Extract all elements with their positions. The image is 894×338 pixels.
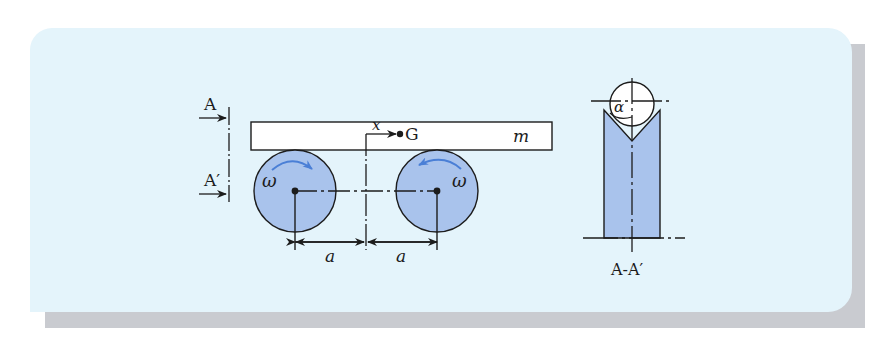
left-wheel-center-dot [292, 188, 299, 195]
section-view [583, 78, 685, 256]
mechanics-diagram: A A′ m x G ω ω a a α A-A′ [0, 0, 894, 338]
distance-label-right: a [396, 246, 406, 266]
omega-left-label: ω [262, 170, 277, 191]
right-wheel-center-dot [434, 188, 441, 195]
section-caption: A-A′ [610, 260, 644, 279]
distance-label-left: a [325, 246, 335, 266]
offset-label: x [372, 116, 381, 134]
center-of-gravity-label: G [405, 124, 419, 144]
angle-label: α [614, 98, 624, 116]
section-label-a: A [203, 94, 217, 114]
mass-label: m [513, 126, 529, 146]
omega-right-label: ω [452, 170, 467, 191]
section-label-a-prime: A′ [203, 170, 220, 190]
center-of-gravity-dot [397, 131, 403, 137]
